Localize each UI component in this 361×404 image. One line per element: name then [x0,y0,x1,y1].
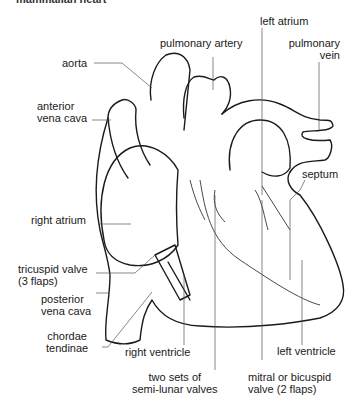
left-atrium-shape [222,100,333,172]
label-left-ventricle: left ventricle [277,345,336,357]
right-atrium-inner [101,146,178,266]
left-atrium-inner [229,120,290,176]
label-posterior-vena-cava: posterior vena cava [41,293,91,317]
label-semilunar-valves: two sets of semi-lunar valves [132,371,218,395]
label-left-atrium: left atrium [260,15,308,27]
label-pulmonary-vein: pulmonary vein [282,37,340,61]
label-tricuspid-valve: tricuspid valve (3 flaps) [18,263,88,287]
label-aorta: aorta [62,57,87,69]
label-chordae-tendinae: chordae tendinae [46,330,88,354]
label-septum: septum [302,168,338,180]
mitral-flaps [255,186,290,230]
label-mitral-valve: mitral or bicuspid valve (2 flaps) [248,371,331,395]
label-pulmonary-artery: pulmonary artery [160,37,243,49]
anterior-vena-cava-shape [108,100,150,178]
pulmonary-artery-shape [183,76,230,118]
label-right-ventricle: right ventricle [125,346,190,358]
tricuspid-flaps [155,245,190,300]
label-right-atrium: right atrium [31,214,86,226]
heart-outer-wall [96,118,343,344]
label-anterior-vena-cava: anterior vena cava [37,100,87,124]
